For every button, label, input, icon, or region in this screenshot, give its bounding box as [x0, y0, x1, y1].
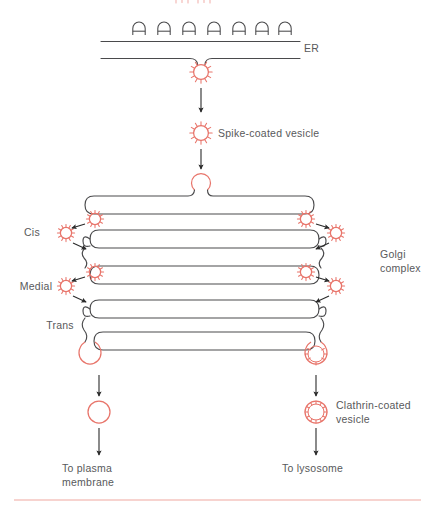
- spike-coated-vesicle-label: Spike-coated vesicle: [218, 127, 319, 139]
- shuttle-vesicle-medial-left: [57, 277, 74, 294]
- golgi-neck-right-2-3: [319, 248, 324, 268]
- golgi-trans-neck-right: [319, 318, 324, 342]
- golgi-complex-label-line2: complex: [380, 262, 421, 274]
- ribosome-icon: [256, 22, 268, 35]
- arrow-cis-left-in: [73, 243, 86, 249]
- ribosome-icon: [133, 22, 145, 35]
- er-label: ER: [304, 42, 319, 54]
- golgi-cisterna-2-left-bud: [83, 237, 90, 247]
- golgi-cisterna-4-right-bud: [319, 307, 326, 317]
- clathrin-coated-vesicle: [305, 401, 327, 423]
- trans-budding-vesicle-left: [79, 342, 101, 364]
- arrow-cis-right-out: [316, 224, 329, 228]
- shuttle-vesicle-medial-right: [327, 277, 344, 294]
- ribosome-icon: [158, 22, 170, 35]
- arrow-cis-left-out: [72, 224, 85, 228]
- transport-vesicle-plasma: [88, 401, 110, 423]
- golgi-trans-neck-left: [82, 318, 87, 342]
- medial-label: Medial: [20, 280, 52, 292]
- spike-coated-vesicle: [190, 122, 212, 144]
- cis-label: Cis: [24, 226, 40, 238]
- to-plasma-membrane-label-line2: membrane: [62, 476, 114, 488]
- cutoff-vesicle-fragment-top: [176, 0, 210, 3]
- to-plasma-membrane-label-line1: To plasma: [62, 462, 112, 474]
- golgi-cisterna-4-trans: [90, 300, 319, 318]
- to-lysosome-label: To lysosome: [282, 462, 343, 474]
- golgi-neck-left-2-3: [82, 248, 87, 268]
- left-output-branch: To plasma membrane: [62, 342, 114, 488]
- golgi-cisterna-3: [90, 266, 319, 284]
- ribosome-icon: [183, 22, 195, 35]
- er-lower-membrane: [101, 59, 300, 65]
- ribosome-icon: [233, 22, 245, 35]
- golgi-cisterna-2: [90, 230, 319, 248]
- golgi-cisterna-1: [85, 190, 314, 214]
- golgi-trans-bottom-sac: [94, 332, 315, 350]
- rough-er: [101, 22, 300, 65]
- golgi-complex: [82, 190, 326, 350]
- shuttle-vesicle-cis-right: [327, 224, 344, 241]
- arrow-medial-right-in: [316, 296, 329, 302]
- shuttle-vesicle-cis-left: [57, 224, 74, 241]
- golgi-fusing-vesicle: [191, 174, 210, 190]
- protein-trafficking-diagram: ER Spike-coated vesicle: [0, 0, 435, 506]
- ribosome-row: [133, 22, 291, 35]
- trans-label: Trans: [46, 319, 74, 331]
- ribosome-icon: [279, 22, 291, 35]
- trans-budding-clathrin-vesicle-right: [305, 342, 327, 365]
- arrow-medial-left-out: [72, 277, 85, 281]
- diagram-root: ER Spike-coated vesicle: [0, 0, 435, 506]
- arrow-medial-left-in: [73, 296, 86, 302]
- clathrin-coated-vesicle-label-line2: vesicle: [336, 413, 370, 425]
- ribosome-icon: [208, 22, 220, 35]
- golgi-complex-label-line1: Golgi: [380, 248, 406, 260]
- clathrin-coated-vesicle-label-line1: Clathrin-coated: [336, 399, 411, 411]
- golgi-cisterna-4-left-bud: [83, 307, 90, 317]
- er-budding-vesicle: [190, 62, 212, 83]
- right-output-branch: Clathrin-coated vesicle To lysosome: [282, 342, 411, 474]
- golgi-budding-vesicle-cis-right: [297, 210, 314, 227]
